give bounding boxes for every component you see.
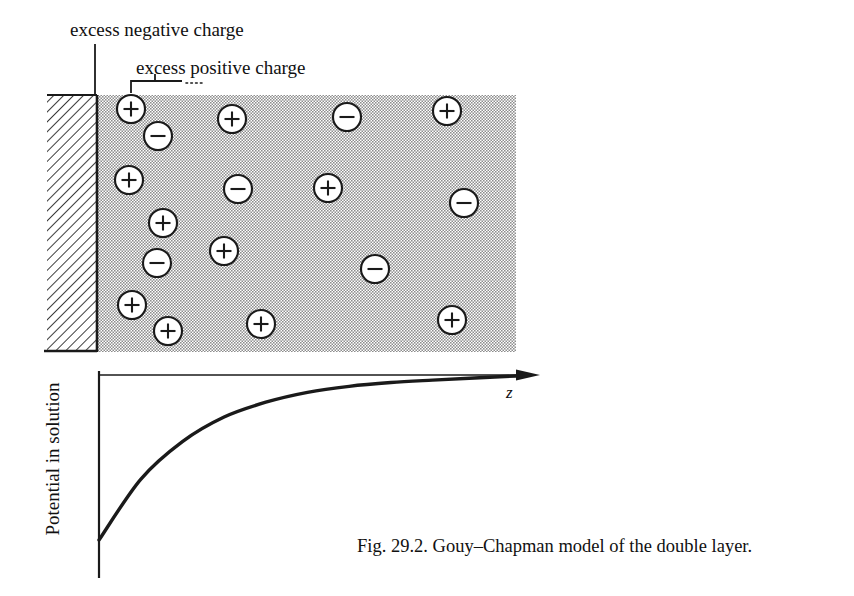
potential-axis-label: Potential in solution	[42, 359, 64, 559]
excess-negative-charge-label: excess negative charge	[70, 19, 244, 41]
cation-ion	[433, 97, 461, 125]
cation-ion	[118, 291, 146, 319]
cation-ion	[218, 105, 246, 133]
cation-ion	[115, 166, 143, 194]
anion-ion	[143, 249, 171, 277]
anion-ion	[333, 103, 361, 131]
excess-positive-charge-label: excess positive charge	[136, 57, 306, 79]
cation-ion	[314, 174, 342, 202]
cation-ion	[149, 209, 177, 237]
cation-ion	[438, 306, 466, 334]
cation-ion	[247, 310, 275, 338]
cation-ion	[210, 237, 238, 265]
anion-ion	[361, 255, 389, 283]
electrode-wall	[44, 95, 97, 352]
cation-ion	[117, 95, 145, 123]
cation-ion	[154, 317, 182, 345]
z-axis-arrowhead	[516, 370, 540, 381]
figure-caption: Fig. 29.2. Gouy–Chapman model of the dou…	[357, 536, 752, 557]
anion-ion	[224, 175, 252, 203]
z-axis-label: z	[506, 383, 513, 403]
potential-curve	[99, 376, 516, 540]
anion-ion	[144, 122, 172, 150]
double-layer-diagram	[0, 0, 854, 596]
anion-ion	[450, 189, 478, 217]
